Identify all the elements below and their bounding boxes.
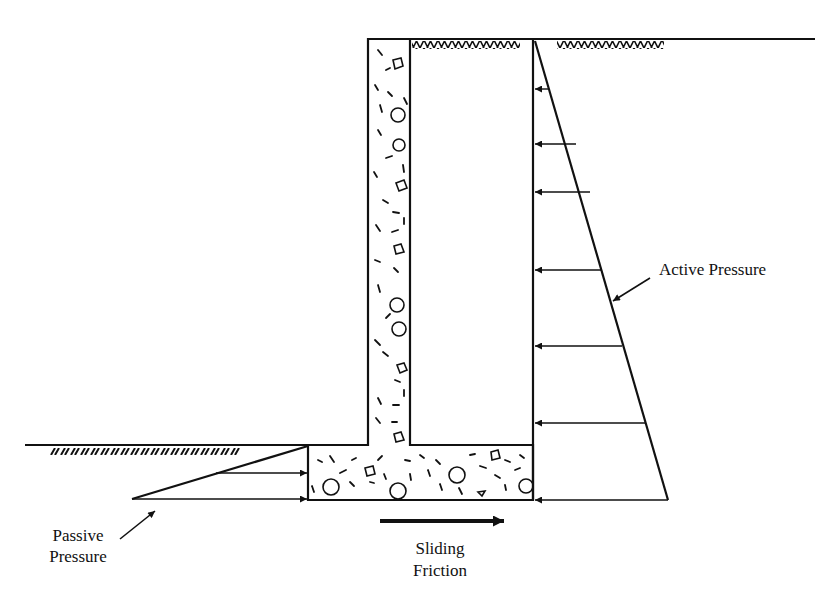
passive-pressure-label-line1: Passive	[38, 525, 118, 547]
concrete-dashes	[312, 50, 524, 494]
active-pressure-label: Active Pressure	[659, 259, 766, 281]
retaining-wall-diagram	[0, 0, 835, 601]
active-pressure-diagram	[535, 41, 668, 500]
passive-pressure-diagram	[120, 446, 308, 539]
ground-surface-right	[368, 39, 815, 49]
concrete-aggregate	[323, 58, 533, 499]
retaining-wall	[308, 39, 533, 500]
passive-pressure-label-line2: Pressure	[38, 546, 118, 568]
ground-surface-left	[25, 445, 308, 455]
sliding-friction-label-line1: Sliding	[400, 538, 480, 560]
sliding-friction-label-line2: Friction	[400, 560, 480, 582]
